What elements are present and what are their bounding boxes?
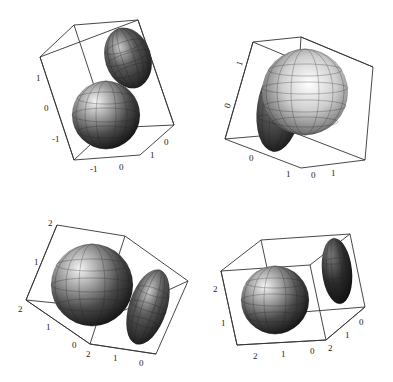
tick-label: 0: [164, 137, 169, 147]
tick-label: 0: [72, 340, 77, 350]
tick-label: 1: [281, 349, 286, 359]
plot-top-left: 1 0 -1 -1 0 1 0: [0, 0, 196, 191]
tick-label: 2: [18, 304, 23, 314]
sphere-surface: [241, 266, 309, 334]
box-edge: [295, 133, 365, 160]
tick-label: 2: [213, 284, 218, 294]
tick-label: 2: [328, 343, 333, 353]
tick-label: 0: [222, 101, 233, 109]
tick-label: 0: [249, 153, 254, 163]
tick-label: 1: [234, 59, 245, 67]
tick-label: -1: [90, 164, 98, 174]
3d-plot-sphere-ellipsoid-overlapping: 1 0 0 1 0 1: [197, 0, 393, 191]
tick-label: 1: [345, 330, 350, 340]
tick-label: 0: [119, 162, 124, 172]
tick-label: 1: [150, 150, 155, 160]
tick-label: 2: [86, 349, 91, 359]
tick-label: 1: [34, 257, 39, 267]
tick-label: 0: [139, 358, 144, 368]
plot-top-right: 1 0 0 1 0 1: [197, 0, 393, 191]
tick-label: -1: [52, 134, 60, 144]
tick-label: 0: [311, 170, 316, 180]
tick-label: 1: [221, 318, 226, 328]
box-edge: [237, 340, 326, 345]
3d-plot-sphere-ellipsoid-far: 2 1 2 1 0 2 1 0: [197, 191, 393, 382]
sphere-surface: [72, 81, 140, 149]
box-edge: [225, 42, 253, 139]
3d-plot-sphere-ellipsoid-touching: 1 0 -1 -1 0 1 0: [0, 0, 196, 191]
tick-label: 2: [48, 218, 53, 228]
tick-label: 1: [286, 169, 291, 179]
tick-label: 1: [113, 353, 118, 363]
plot-bottom-left: 2 1 2 1 0 2 1 0: [0, 191, 196, 382]
sphere-surface: [262, 49, 348, 135]
ellipsoid-surface: [319, 237, 356, 306]
tick-label: 0: [359, 317, 364, 327]
tick-label: 0: [44, 103, 49, 113]
tick-label: 1: [36, 73, 41, 83]
box-edge: [90, 344, 156, 354]
box-edge: [221, 271, 237, 345]
tick-label: 0: [310, 346, 315, 356]
sphere-surface: [51, 244, 133, 326]
tick-label: 1: [331, 168, 336, 178]
3d-plot-sphere-ellipsoid-separated: 2 1 2 1 0 2 1 0: [0, 191, 196, 382]
tick-label: 2: [253, 351, 258, 361]
tick-label: 1: [46, 322, 51, 332]
plot-bottom-right: 2 1 2 1 0 2 1 0: [197, 191, 393, 382]
